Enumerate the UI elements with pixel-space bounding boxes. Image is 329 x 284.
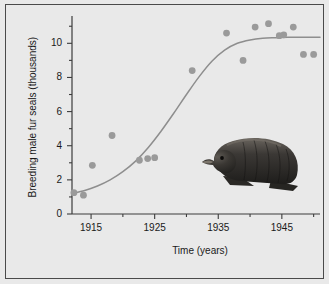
data-point[interactable] — [80, 192, 87, 199]
y-tick-label: 4 — [40, 140, 62, 151]
figure-background: Breeding male fur seals (thousands) Time… — [0, 0, 329, 284]
data-point[interactable] — [280, 31, 287, 38]
data-point[interactable] — [300, 51, 307, 58]
x-axis-title: Time (years) — [80, 245, 320, 256]
x-tick-label: 1915 — [71, 222, 111, 233]
y-tick-label: 10 — [40, 37, 62, 48]
data-point[interactable] — [265, 20, 272, 27]
data-point[interactable] — [290, 24, 297, 31]
y-tick-label: 6 — [40, 106, 62, 117]
data-point[interactable] — [136, 157, 143, 164]
y-axis-title: Breeding male fur seals (thousands) — [27, 38, 38, 198]
data-point[interactable] — [144, 155, 151, 162]
data-point[interactable] — [240, 57, 247, 64]
data-point[interactable] — [71, 189, 78, 196]
x-tick-label: 1935 — [198, 222, 238, 233]
seal-eye — [220, 156, 224, 160]
y-axis-tick-marks — [67, 26, 72, 214]
y-tick-label: 2 — [40, 174, 62, 185]
data-point[interactable] — [109, 132, 116, 139]
data-point[interactable] — [223, 30, 230, 37]
data-point[interactable] — [151, 154, 158, 161]
fur-seal-illustration — [197, 128, 305, 200]
data-point[interactable] — [252, 24, 259, 31]
data-point[interactable] — [89, 162, 96, 169]
x-axis-tick-marks — [91, 214, 314, 219]
y-tick-label: 8 — [40, 71, 62, 82]
data-point[interactable] — [310, 51, 317, 58]
x-tick-label: 1945 — [262, 222, 302, 233]
y-tick-label: 0 — [40, 208, 62, 219]
x-tick-label: 1925 — [135, 222, 175, 233]
data-point[interactable] — [189, 67, 196, 74]
